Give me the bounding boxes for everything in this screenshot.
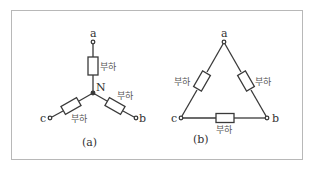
label-a: a — [90, 27, 97, 40]
load-resistor-ab — [238, 71, 255, 91]
circuit-diagram: a N b c 부하 부하 부하 (a) a b c 부하 부하 부하 (b) — [0, 0, 316, 172]
label-n: N — [96, 81, 106, 94]
terminal-c — [48, 116, 52, 120]
delta-terminal-c — [179, 116, 183, 120]
wye-circuit — [48, 40, 138, 120]
terminal-a — [91, 40, 95, 44]
label-b: b — [139, 112, 146, 125]
load-label-a: 부하 — [100, 62, 117, 72]
load-label-b: 부하 — [117, 91, 134, 101]
delta-label-b: b — [272, 112, 279, 125]
terminal-b — [134, 116, 138, 120]
delta-label-a: a — [221, 27, 228, 40]
load-resistor-ac — [194, 71, 211, 91]
delta-load-label-ac: 부하 — [174, 77, 191, 87]
label-c: c — [40, 112, 46, 125]
delta-load-label-cb: 부하 — [216, 125, 233, 135]
delta-terminal-b — [265, 116, 269, 120]
load-resistor-c — [61, 98, 81, 115]
delta-label-c: c — [171, 112, 177, 125]
load-resistor-a — [88, 57, 98, 75]
neutral-node — [91, 91, 95, 95]
load-label-c: 부하 — [71, 114, 88, 124]
load-resistor-cb — [216, 114, 234, 123]
caption-a: (a) — [82, 136, 97, 149]
caption-b: (b) — [193, 133, 209, 146]
delta-terminal-a — [222, 40, 226, 44]
delta-load-label-ab: 부하 — [255, 77, 272, 87]
